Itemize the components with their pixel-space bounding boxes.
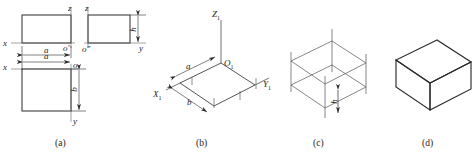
caption-d: (d): [422, 138, 433, 148]
panel-a-label-o-double-prime: o″: [82, 45, 90, 54]
panel-b-dim-label-a: a: [186, 62, 191, 71]
engineering-figure: [0, 0, 474, 157]
panel-b-construction-ticks: [192, 77, 256, 108]
panel-a-dim-label-b-right: b: [70, 85, 79, 95]
panel-a-label-z-top-left: z: [68, 4, 72, 13]
panel-a-dim-label-h-right: h: [129, 25, 138, 35]
panel-b-label-x1-sub: 1: [159, 95, 162, 101]
panel-b-label-y1: Y1: [263, 80, 271, 93]
panel-b-label-z1-sub: 1: [217, 15, 220, 21]
panel-a-label-y-right: y: [139, 44, 143, 53]
panel-a-bottom-left-rect: [22, 69, 71, 111]
caption-c: (c): [313, 138, 324, 148]
panel-a-dim-label-a-bottom: a: [44, 52, 49, 61]
panel-a-top-right-rect: [88, 15, 130, 43]
panel-a-label-x-left: x: [3, 39, 7, 48]
panel-c-dim-label-h: h: [330, 97, 339, 107]
panel-b-dimension-a: [176, 57, 215, 76]
panel-b-label-y1-sub: 1: [268, 85, 271, 91]
panel-b-label-o1-sub: 1: [231, 64, 234, 70]
panel-b-label-z1: Z1: [212, 10, 220, 23]
panel-a-label-x-bottom: x: [3, 63, 7, 72]
panel-a-label-o-prime: o′: [63, 44, 69, 53]
caption-a: (a): [55, 138, 66, 148]
panel-a-label-o: o: [73, 61, 78, 70]
panel-c-top-parallelogram: [291, 41, 366, 84]
panel-b-x-axis: [166, 83, 180, 90]
panel-a-top-left-rect: [22, 15, 71, 43]
panel-a-label-z-top-right: z: [85, 4, 89, 13]
panel-a-label-y-bottom: y: [73, 117, 77, 126]
panel-b-dim-label-b: b: [187, 98, 192, 107]
panel-d-solid-box: [396, 40, 471, 110]
panel-b-label-x1: X1: [153, 90, 162, 103]
caption-b: (b): [196, 138, 207, 148]
panel-b-label-o1: O1: [224, 59, 234, 72]
